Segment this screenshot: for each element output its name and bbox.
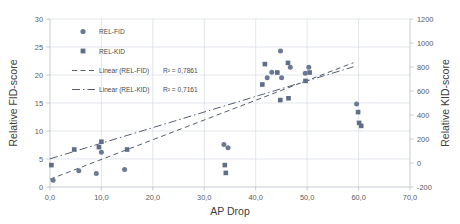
legend-label-rel-kid: REL-KID	[99, 48, 125, 55]
y2-tick-label: -200	[417, 183, 432, 192]
y-tick-label: 5	[39, 155, 43, 164]
legend-label-linear-rel-kid: Linear (REL-KID)	[99, 86, 150, 94]
y-axis-right-tick-labels: 1200 1000 800 600 400 200 0 -200	[417, 15, 433, 192]
y2-tick-label: 1200	[417, 15, 433, 24]
chart-svg: 30 25 20 15 10 5 0 1200 1000 800 600 400…	[0, 0, 460, 224]
series-rel-kid-points	[49, 61, 363, 176]
series-rel-fid-points	[51, 49, 360, 183]
x-tick-label: 10,0	[94, 193, 108, 202]
y2-tick-label: 400	[417, 111, 429, 120]
trendlines	[50, 63, 354, 180]
y-tick-label: 25	[35, 43, 43, 52]
y2-axis-title: Relative KID-score	[439, 59, 451, 147]
y2-tick-label: 800	[417, 63, 429, 72]
y-axis-left-tick-labels: 30 25 20 15 10 5 0	[35, 15, 43, 192]
x-tick-label: 70,0	[403, 193, 417, 202]
y2-tick-label: 600	[417, 87, 429, 96]
chart-legend: REL-FID REL-KID Linear (REL-FID) R² = 0,…	[72, 28, 198, 94]
trendline-rel-kid	[50, 67, 354, 159]
y-tick-label: 0	[39, 183, 43, 192]
x-tick-label: 0,0	[45, 193, 55, 202]
y2-tick-label: 200	[417, 135, 429, 144]
scatter-chart: 30 25 20 15 10 5 0 1200 1000 800 600 400…	[0, 0, 460, 224]
x-tick-label: 20,0	[146, 193, 160, 202]
x-tick-label: 30,0	[197, 193, 211, 202]
y2-tick-label: 0	[417, 159, 421, 168]
legend-r2-rel-kid: R² = 0,7161	[163, 86, 198, 93]
legend-label-linear-rel-fid: Linear (REL-FID)	[99, 67, 149, 75]
y-tick-label: 20	[35, 71, 43, 80]
x-axis-title: AP Drop	[210, 205, 250, 217]
y-axis-right-ticks	[410, 19, 414, 187]
x-tick-label: 40,0	[249, 193, 263, 202]
y-tick-label: 10	[35, 127, 43, 136]
y-tick-label: 15	[35, 99, 43, 108]
legend-label-rel-fid: REL-FID	[99, 28, 125, 35]
y-axis-left-ticks	[47, 19, 51, 187]
y-axis-title: Relative FID-score	[7, 59, 19, 146]
x-axis-tick-labels: 0,0 10,0 20,0 30,0 40,0 50,0 60,0 70,0	[45, 193, 417, 202]
x-tick-label: 50,0	[300, 193, 314, 202]
legend-r2-rel-fid: R² = 0,7861	[163, 67, 198, 74]
x-axis-ticks	[50, 187, 410, 191]
y-tick-label: 30	[35, 15, 43, 24]
legend-marker-rel-kid	[81, 49, 86, 54]
y2-tick-label: 1000	[417, 39, 433, 48]
x-tick-label: 60,0	[351, 193, 365, 202]
legend-marker-rel-fid	[80, 29, 85, 34]
